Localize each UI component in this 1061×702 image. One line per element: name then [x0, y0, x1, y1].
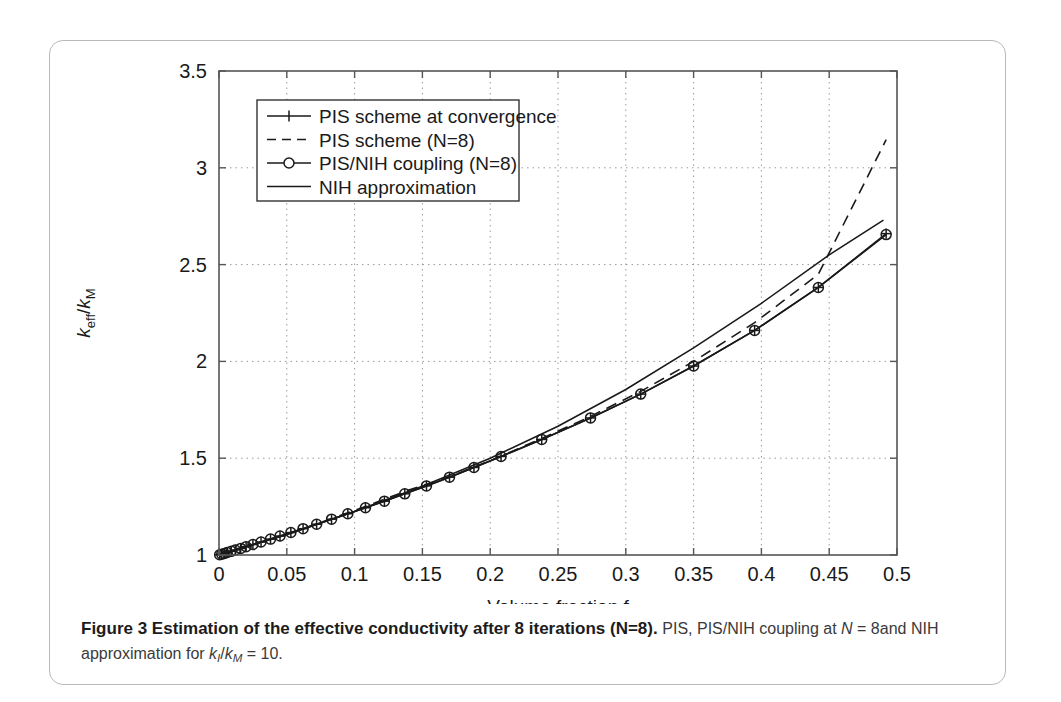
- x-tick-label: 0.05: [267, 563, 306, 585]
- y-tick-label: 2.5: [179, 254, 207, 276]
- series-line-1: [220, 140, 886, 555]
- legend-marker-circle: [284, 158, 294, 168]
- y-tick-label: 1.5: [179, 447, 207, 469]
- y-tick-label: 3.5: [179, 60, 207, 82]
- x-tick-label: 0.4: [747, 563, 775, 585]
- legend-label-0[interactable]: PIS scheme at convergence: [319, 106, 557, 127]
- y-label-sub-m: M: [83, 288, 98, 299]
- x-tick-label: 0.35: [674, 563, 713, 585]
- caption-text-1: PIS, PIS/NIH coupling at: [662, 620, 841, 637]
- x-tick-label: 0.15: [403, 563, 442, 585]
- y-axis-title-text: keff/kM: [73, 288, 98, 337]
- x-tick-label: 0.25: [539, 563, 578, 585]
- y-tick-label: 3: [196, 157, 207, 179]
- chart-plot-area: 00.050.10.150.20.250.30.350.40.450.511.5…: [50, 41, 1007, 604]
- x-tick-label: 0: [213, 563, 224, 585]
- x-tick-label: 0.5: [883, 563, 911, 585]
- y-axis-title: keff/kM: [73, 288, 98, 337]
- x-tick-label: 0.2: [476, 563, 504, 585]
- legend-label-2[interactable]: PIS/NIH coupling (N=8): [319, 153, 517, 174]
- caption-k1: k: [209, 645, 217, 662]
- caption-line2-b: = 10.: [242, 645, 282, 662]
- conductivity-line-chart: 00.050.10.150.20.250.30.350.40.450.511.5…: [50, 41, 1007, 604]
- x-tick-label: 0.3: [612, 563, 640, 585]
- x-tick-label: 0.45: [810, 563, 849, 585]
- figure-caption: Figure 3 Estimation of the effective con…: [81, 617, 976, 667]
- series-line-0: [220, 234, 886, 555]
- y-tick-label: 2: [196, 350, 207, 372]
- series-line-2: [220, 235, 886, 555]
- caption-var-n: N: [841, 620, 853, 637]
- legend-label-3[interactable]: NIH approximation: [319, 177, 476, 198]
- caption-text-2: = 8: [853, 620, 880, 637]
- y-label-sub-eff: eff: [83, 314, 98, 329]
- series-line-3: [219, 220, 883, 555]
- caption-k2: k: [225, 645, 233, 662]
- caption-title: Figure 3 Estimation of the effective con…: [81, 619, 658, 638]
- y-tick-label: 1: [196, 544, 207, 566]
- x-axis-title: Volume fraction f: [487, 596, 629, 604]
- figure-card: 00.050.10.150.20.250.30.350.40.450.511.5…: [49, 40, 1006, 685]
- x-tick-label: 0.1: [341, 563, 369, 585]
- legend-label-1[interactable]: PIS scheme (N=8): [319, 130, 475, 151]
- caption-k2-sub: M: [233, 652, 243, 664]
